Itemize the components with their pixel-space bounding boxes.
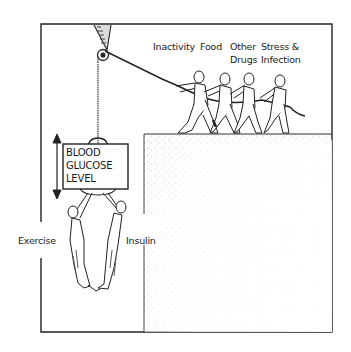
up-down-arrow-icon bbox=[53, 134, 61, 199]
label-infection: Infection bbox=[261, 54, 301, 66]
label-food: Food bbox=[200, 41, 222, 53]
glucose-box-line-1: BLOOD bbox=[66, 146, 112, 159]
cliff bbox=[130, 134, 332, 332]
label-stress: Stress & bbox=[261, 41, 299, 53]
label-drugs: Drugs bbox=[230, 54, 257, 66]
glucose-box-line-2: GLUCOSE bbox=[66, 159, 112, 172]
hanging-figures bbox=[68, 193, 126, 291]
glucose-box-label: BLOOD GLUCOSE LEVEL bbox=[66, 146, 112, 185]
pulley-icon bbox=[94, 25, 111, 61]
diagram-canvas: BLOOD GLUCOSE LEVEL Inactivity Food Othe… bbox=[0, 0, 351, 352]
label-exercise: Exercise bbox=[18, 235, 56, 247]
label-inactivity: Inactivity bbox=[153, 41, 195, 53]
label-insulin: Insulin bbox=[126, 235, 156, 247]
label-other: Other bbox=[230, 41, 256, 53]
glucose-box-line-3: LEVEL bbox=[66, 172, 112, 185]
